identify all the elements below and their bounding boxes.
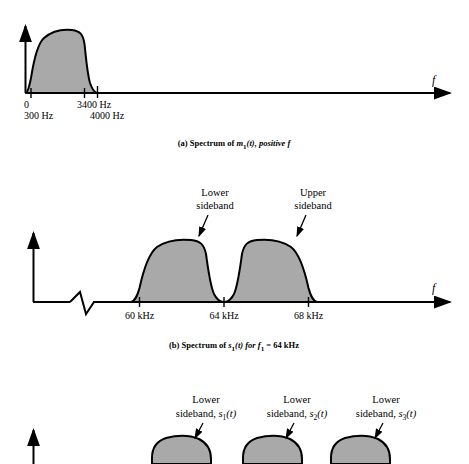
- panel-c-annotation-2-arrow: [286, 423, 294, 438]
- panel-b-annotation-upper-line2: sideband: [294, 200, 332, 211]
- panel-c-annotation-3-line1: Lower: [372, 394, 400, 405]
- panel-a-caption-prefix: (a) Spectrum of: [178, 138, 237, 148]
- panel-c-lobe-3: [331, 436, 390, 464]
- panel-b-caption-prefix: (b) Spectrum of: [169, 340, 228, 350]
- panel-b-annotation-upper-arrow: [297, 215, 306, 236]
- panel-b-lower-sideband-lobe: [131, 240, 223, 302]
- panel-b-caption: (b) Spectrum of s1(t) for f1 = 64 kHz: [169, 340, 299, 353]
- panel-c-annotation-3-prefix: sideband,: [356, 408, 399, 419]
- panel-c-annotation-1-prefix: sideband,: [176, 408, 219, 419]
- panel-c-annotation-3-sig-suffix: (t): [406, 408, 416, 420]
- panel-a-ticklabel-0: 0: [24, 99, 29, 110]
- panel-b-caption-suffix: = 64 kHz: [264, 340, 299, 350]
- panel-c-annotation-1-arrow: [195, 423, 203, 438]
- panel-a-ticklabel-3400: 3400 Hz: [77, 99, 112, 110]
- panel-c-annotation-2-line2: sideband, s2(t): [267, 408, 328, 422]
- panel-c-annotation-2-prefix: sideband,: [267, 408, 310, 419]
- panel-b-ticklabel-68: 68 kHz: [294, 310, 324, 321]
- panel-a: 0 300 Hz 3400 Hz 4000 Hz f (a) Spectrum …: [24, 26, 450, 151]
- panel-a-axis-label-f: f: [432, 73, 437, 87]
- panel-b: 60 kHz 64 kHz 68 kHz f Lower sideband Up…: [33, 187, 450, 353]
- panel-c-lobe-1: [152, 436, 211, 464]
- panel-c-annotation-3-line2: sideband, s3(t): [356, 408, 417, 422]
- panel-c-lobe-2: [243, 436, 302, 464]
- panel-a-spectrum-lobe: [26, 30, 97, 93]
- panel-a-caption-f: f: [287, 138, 291, 148]
- panel-b-ticklabel-60: 60 kHz: [125, 310, 155, 321]
- panel-c: Lower sideband, s1(t) Lower sideband, s2…: [34, 394, 417, 464]
- panel-c-annotation-2-line1: Lower: [283, 394, 311, 405]
- panel-a-ticklabel-4000: 4000 Hz: [90, 110, 125, 121]
- panel-b-caption-mid: (t) for: [235, 340, 258, 350]
- panel-b-annotation-lower-line2: sideband: [196, 200, 234, 211]
- panel-c-annotation-1-line1: Lower: [192, 394, 220, 405]
- panel-c-annotation-1-line2: sideband, s1(t): [176, 408, 237, 422]
- panel-b-ticklabel-64: 64 kHz: [209, 310, 239, 321]
- panel-a-caption-mid: (t), positive: [247, 138, 288, 148]
- panel-c-annotation-1-sig-suffix: (t): [226, 408, 236, 420]
- panel-c-annotation-2-sig-suffix: (t): [317, 408, 327, 420]
- panel-b-axis-label-f: f: [432, 281, 437, 295]
- panel-b-annotation-lower-arrow: [199, 215, 208, 236]
- panel-b-upper-sideband-lobe: [225, 240, 317, 302]
- panel-b-axis-break-zigzag: [70, 292, 94, 314]
- figure-container: 0 300 Hz 3400 Hz 4000 Hz f (a) Spectrum …: [0, 0, 469, 464]
- panel-c-annotation-3-arrow: [375, 423, 383, 438]
- panel-b-annotation-lower-line1: Lower: [201, 187, 229, 198]
- panel-a-caption: (a) Spectrum of m1(t), positive f: [178, 138, 292, 151]
- panel-a-ticklabel-300: 300 Hz: [24, 110, 54, 121]
- panel-b-annotation-upper-line1: Upper: [300, 187, 327, 198]
